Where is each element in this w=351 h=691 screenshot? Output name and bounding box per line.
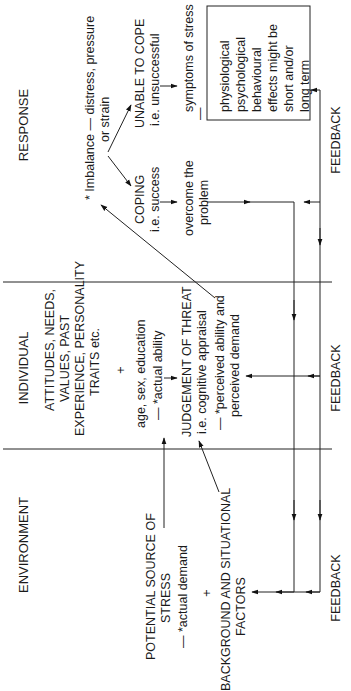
svg-text:long term: long term [298, 60, 312, 112]
svg-text:UNABLE TO COPE: UNABLE TO COPE [133, 19, 147, 128]
svg-text:COPING: COPING [133, 175, 147, 224]
imbalance-text: * Imbalance — distress, pressure or stra… [83, 16, 112, 200]
background-text: BACKGROUND AND SITUATIONAL FACTORS [219, 488, 248, 691]
feedback-label-environment: FEEDBACK [329, 554, 343, 622]
coping-text: COPING i.e. success [133, 167, 162, 232]
plus-individual: + [114, 366, 128, 373]
stress-model-diagram: RESPONSE INDIVIDUAL ENVIRONMENT * Imbala… [0, 0, 351, 691]
feedback-label-response: FEEDBACK [329, 106, 343, 174]
svg-text:ATTITUDES, NEEDS,: ATTITUDES, NEEDS, [43, 289, 57, 411]
feedback-label-individual: FEEDBACK [329, 344, 343, 412]
svg-text:BACKGROUND AND SITUATIONAL: BACKGROUND AND SITUATIONAL [219, 488, 233, 691]
arrow-imbalance-to-coping [108, 156, 131, 186]
symptoms-dash: — [193, 107, 207, 120]
svg-text:POTENTIAL SOURCE OF: POTENTIAL SOURCE OF [144, 513, 158, 660]
symptoms-of-stress: symptoms of stress [182, 4, 196, 112]
actual-ability-text: — *actual ability [151, 330, 165, 420]
svg-text:i.e. unsuccessful: i.e. unsuccessful [148, 34, 162, 126]
svg-text:perceived demand: perceived demand [228, 314, 242, 417]
svg-text:physiological: physiological [218, 40, 232, 112]
actual-demand-text: — *actual demand [176, 545, 190, 648]
svg-text:EXPERIENCE, PERSONALITY: EXPERIENCE, PERSONALITY [73, 260, 87, 436]
source-text: POTENTIAL SOURCE OF STRESS [144, 513, 173, 660]
svg-text:JUDGEMENT OF THREAT: JUDGEMENT OF THREAT [180, 286, 194, 437]
svg-text:i.e. success: i.e. success [148, 167, 162, 232]
svg-text:behavioural: behavioural [250, 47, 264, 112]
plus-environment: + [200, 589, 214, 596]
svg-text:effects might be: effects might be [266, 24, 280, 112]
header-environment: ENVIRONMENT [16, 497, 31, 593]
perceived-text: — *perceived ability and perceived deman… [213, 295, 242, 430]
effects-text: physiological psychological behavioural … [218, 24, 312, 112]
svg-text:i.e. cognitive appraisal: i.e. cognitive appraisal [195, 310, 209, 434]
header-individual: INDIVIDUAL [16, 332, 31, 405]
svg-text:— *perceived ability and: — *perceived ability and [213, 295, 227, 430]
svg-text:STRESS: STRESS [159, 573, 173, 623]
demographics-text: age, sex, education [134, 320, 148, 428]
svg-text:overcome the: overcome the [182, 160, 196, 236]
svg-text:FACTORS: FACTORS [234, 577, 248, 636]
svg-text:VALUES, PAST: VALUES, PAST [58, 315, 72, 402]
svg-text:* Imbalance — distress, pressu: * Imbalance — distress, pressure [83, 16, 97, 200]
svg-text:TRAITS etc.: TRAITS etc. [88, 328, 102, 396]
svg-text:or strain: or strain [98, 97, 112, 142]
unable-to-cope-text: UNABLE TO COPE i.e. unsuccessful [133, 19, 162, 128]
judgement-text: JUDGEMENT OF THREAT i.e. cognitive appra… [180, 286, 209, 437]
svg-text:psychological: psychological [234, 37, 248, 112]
attitudes-text: ATTITUDES, NEEDS, VALUES, PAST EXPERIENC… [43, 260, 102, 436]
overcome-problem-text: overcome the problem [182, 160, 211, 236]
header-response: RESPONSE [16, 89, 31, 162]
svg-text:short and/or: short and/or [282, 45, 296, 112]
